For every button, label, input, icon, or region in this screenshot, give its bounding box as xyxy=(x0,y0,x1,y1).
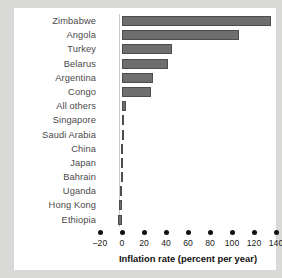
bar-track xyxy=(100,198,276,212)
category-label: Singapore xyxy=(14,113,96,127)
bar xyxy=(122,130,124,140)
x-axis-title: Inflation rate (percent per year) xyxy=(100,253,276,264)
bar-row: Ethiopia xyxy=(14,213,276,227)
bar-track xyxy=(100,99,276,113)
x-tick-label: 140 xyxy=(269,238,282,248)
bar xyxy=(122,115,124,125)
x-tick-dot xyxy=(98,230,103,235)
x-tick-dot xyxy=(230,230,235,235)
category-label: Argentina xyxy=(14,71,96,85)
x-tick-dot xyxy=(274,230,279,235)
bar-row: Argentina xyxy=(14,71,276,85)
bar-row: Japan xyxy=(14,156,276,170)
bar-row: Singapore xyxy=(14,113,276,127)
category-label: Belarus xyxy=(14,57,96,71)
x-tick-dot xyxy=(208,230,213,235)
bar-track xyxy=(100,128,276,142)
x-axis: Inflation rate (percent per year) –20020… xyxy=(100,230,276,270)
category-label: Saudi Arabia xyxy=(14,128,96,142)
plot-area: ZimbabweAngolaTurkeyBelarusArgentinaCong… xyxy=(14,8,276,270)
bar xyxy=(121,172,123,182)
x-tick-label: 20 xyxy=(139,238,149,248)
bar-row: All others xyxy=(14,99,276,113)
bar xyxy=(122,59,168,69)
category-label: Japan xyxy=(14,156,96,170)
bar-row: China xyxy=(14,142,276,156)
bar-row: Saudi Arabia xyxy=(14,128,276,142)
category-label: Zimbabwe xyxy=(14,14,96,28)
x-tick-dot xyxy=(120,230,125,235)
bar xyxy=(119,200,122,210)
category-label: Angola xyxy=(14,28,96,42)
bar-track xyxy=(100,113,276,127)
bar xyxy=(122,30,239,40)
x-tick-label: 0 xyxy=(120,238,125,248)
bar-row: Uganda xyxy=(14,184,276,198)
x-tick-label: 80 xyxy=(205,238,215,248)
category-label: Bahrain xyxy=(14,170,96,184)
x-tick-dot xyxy=(186,230,191,235)
bar-track xyxy=(100,42,276,56)
x-tick-dot xyxy=(252,230,257,235)
x-tick-label: 120 xyxy=(247,238,261,248)
category-label: All others xyxy=(14,99,96,113)
bar-row: Hong Kong xyxy=(14,198,276,212)
x-tick-dot xyxy=(164,230,169,235)
bar-track xyxy=(100,142,276,156)
bar-track xyxy=(100,57,276,71)
bar xyxy=(118,215,122,225)
x-tick-label: 40 xyxy=(161,238,171,248)
bar-track xyxy=(100,28,276,42)
bar-rows: ZimbabweAngolaTurkeyBelarusArgentinaCong… xyxy=(14,14,276,227)
bar-track xyxy=(100,85,276,99)
bar-row: Zimbabwe xyxy=(14,14,276,28)
bar-track xyxy=(100,213,276,227)
chart-card: ZimbabweAngolaTurkeyBelarusArgentinaCong… xyxy=(14,8,276,270)
x-tick-label: –20 xyxy=(93,238,107,248)
x-tick-label: 60 xyxy=(183,238,193,248)
bar xyxy=(122,101,126,111)
bar-row: Turkey xyxy=(14,42,276,56)
bar xyxy=(122,44,172,54)
category-label: Turkey xyxy=(14,42,96,56)
bar-track xyxy=(100,184,276,198)
x-tick-dot xyxy=(142,230,147,235)
bar-track xyxy=(100,156,276,170)
bar xyxy=(120,186,122,196)
bar-track xyxy=(100,170,276,184)
bar xyxy=(122,16,271,26)
bar-row: Angola xyxy=(14,28,276,42)
bar-track xyxy=(100,71,276,85)
category-label: Congo xyxy=(14,85,96,99)
bar-row: Belarus xyxy=(14,57,276,71)
bar-track xyxy=(100,14,276,28)
chart-root: ZimbabweAngolaTurkeyBelarusArgentinaCong… xyxy=(0,0,282,278)
x-tick-label: 100 xyxy=(225,238,239,248)
bar xyxy=(121,144,123,154)
bar xyxy=(121,158,123,168)
bar xyxy=(122,73,153,83)
bar xyxy=(122,87,151,97)
category-label: Uganda xyxy=(14,184,96,198)
category-label: China xyxy=(14,142,96,156)
category-label: Ethiopia xyxy=(14,213,96,227)
bar-row: Congo xyxy=(14,85,276,99)
bar-row: Bahrain xyxy=(14,170,276,184)
category-label: Hong Kong xyxy=(14,198,96,212)
